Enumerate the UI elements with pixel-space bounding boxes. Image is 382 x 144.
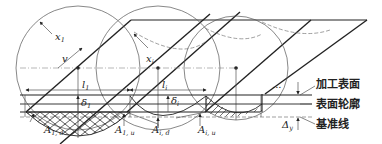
legend-reference-line: 基准线: [315, 117, 349, 131]
slant-line-4: [205, 20, 311, 112]
legend-surface-profile: 表面轮廓: [315, 97, 360, 111]
dashed-arc-3: [262, 22, 330, 34]
dashed-arc-1: [134, 32, 205, 49]
label-Aiu: Ai, u: [197, 124, 216, 137]
label-x1: x1: [55, 31, 65, 44]
leader-reference: [300, 117, 315, 124]
slant-line-1: [26, 20, 131, 112]
label-A1u: A1, u: [114, 124, 135, 137]
dashed-arc-2: [205, 28, 262, 39]
label-deltai: δi: [171, 95, 179, 108]
dim-x1: [40, 22, 52, 34]
label-v: v: [62, 53, 68, 64]
label-delta1: δ1: [81, 97, 91, 110]
label-ellipsis: ...: [272, 79, 282, 90]
label-Aid: Ai, d: [151, 124, 170, 137]
label-xi: xi: [146, 53, 154, 66]
legend-machined-surface: 加工表面: [315, 77, 360, 91]
machining-diagram: x1 xi v l1 li δ1 δi A1, d A1, u Ai, d Ai…: [0, 0, 382, 144]
leader-machined: [300, 86, 315, 95]
label-delta-y: Δy: [281, 119, 293, 132]
